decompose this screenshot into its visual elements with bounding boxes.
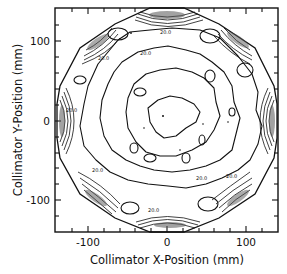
- x-tick-label: 100: [236, 236, 256, 248]
- contour-label: 20.0: [66, 107, 77, 113]
- y-tick-label: 100: [30, 35, 50, 47]
- contour-label: 20.0: [196, 175, 207, 181]
- x-axis-label: Collimator X-Position (mm): [90, 253, 244, 267]
- contour-label: 20.0: [160, 29, 171, 35]
- y-axis-label: Collimator Y-Position (mm): [11, 44, 25, 196]
- contour-label: 20.0: [148, 207, 159, 213]
- x-tick-label: 0: [164, 236, 171, 248]
- y-tick-label: 0: [43, 115, 50, 127]
- contour-plot: 20.0 20.0 20.0 20.0 20.0 20.0 20.0 20.0 …: [0, 0, 287, 274]
- edge-gradient-contours: [59, 11, 275, 228]
- contour-label: 20.0: [226, 173, 237, 179]
- contour-label: 20.0: [140, 50, 151, 56]
- contour-label: 20.0: [92, 167, 103, 173]
- x-tick-label: -100: [76, 236, 100, 248]
- contour-label: 20.0: [98, 55, 109, 61]
- y-tick-label: -100: [26, 194, 50, 206]
